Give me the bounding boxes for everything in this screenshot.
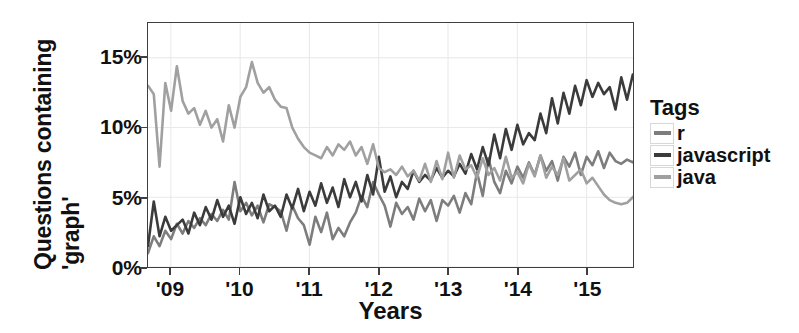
y-tick-mark [140,127,147,129]
legend-label: javascript [677,145,770,165]
y-axis-tick-labels: 0%5%10%15% [80,0,142,333]
y-tick-label: 5% [80,186,142,210]
y-axis-title-line-1: Questions containing [30,39,57,270]
legend-title: Tags [650,96,798,119]
plot-area [147,22,634,268]
series-line-r [148,132,633,253]
y-tick-label: 0% [80,256,142,280]
y-tick-label: 10% [80,115,142,139]
legend-label: java [677,167,716,187]
x-axis-title: Years [147,297,634,325]
chart-figure: Questions containing 'graph' 0%5%10%15% … [0,0,799,333]
series-line-java [148,62,633,204]
y-tick-mark [140,56,147,58]
x-tick-mark [239,268,241,275]
legend-item-javascript[interactable]: javascript [650,144,798,166]
x-tick-mark [447,268,449,275]
chart-legend: Tags rjavascriptjava [650,96,798,188]
legend-swatch-r [650,123,674,144]
y-axis-title: Questions containing 'graph' [0,0,90,290]
gridlines [148,23,633,267]
x-tick-mark [378,268,380,275]
legend-item-java[interactable]: java [650,166,798,188]
legend-item-r[interactable]: r [650,122,798,144]
x-tick-mark [517,268,519,275]
legend-line-icon [654,153,671,157]
x-tick-mark [586,268,588,275]
legend-swatch-java [650,167,674,188]
y-tick-mark [140,197,147,199]
y-tick-mark [140,267,147,269]
series-lines [148,58,633,253]
x-tick-mark [308,268,310,275]
series-line-javascript [148,58,633,246]
legend-swatch-javascript [650,145,674,166]
x-tick-mark [169,268,171,275]
y-tick-label: 15% [80,45,142,69]
legend-label: r [677,123,685,143]
legend-items: rjavascriptjava [650,122,798,188]
plot-canvas [148,23,633,267]
legend-line-icon [654,175,671,179]
legend-line-icon [654,131,671,135]
